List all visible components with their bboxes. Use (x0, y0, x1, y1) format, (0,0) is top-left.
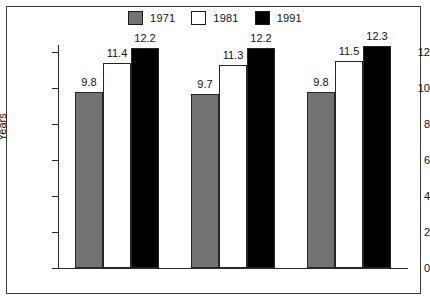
bar-wrap-men-1971: 9.8 (307, 45, 335, 268)
bar-value-men-1981: 11.5 (339, 46, 360, 57)
y-tick-mark-6 (52, 160, 58, 161)
y-tick-mark-2 (52, 232, 58, 233)
bar-wrap-men-1991: 12.3 (363, 45, 391, 268)
legend-label-1991: 1991 (277, 12, 302, 24)
bar-women-1991[interactable] (247, 48, 275, 268)
bar-wrap-total-1971: 9.8 (75, 45, 103, 268)
bar-men-1981[interactable] (335, 61, 363, 268)
legend-item-1991: 1991 (255, 11, 302, 25)
legend-item-1981: 1981 (191, 11, 238, 25)
bar-wrap-total-1981: 11.4 (103, 45, 131, 268)
bar-groups: 9.8 11.4 12.2 Total 9.7 11.3 (59, 45, 407, 268)
legend-label-1981: 1981 (213, 12, 238, 24)
y-axis-title: Years (0, 113, 8, 141)
bar-value-women-1971: 9.7 (197, 79, 212, 90)
bar-value-men-1971: 9.8 (313, 77, 328, 88)
bar-men-1991[interactable] (363, 46, 391, 268)
legend-swatch-1981 (191, 11, 206, 25)
bar-wrap-women-1981: 11.3 (219, 45, 247, 268)
bar-value-women-1981: 11.3 (223, 50, 244, 61)
bar-value-men-1991: 12.3 (366, 31, 387, 42)
x-axis-line (58, 268, 408, 269)
bar-total-1971[interactable] (75, 92, 103, 268)
bar-women-1981[interactable] (219, 65, 247, 268)
bar-value-total-1971: 9.8 (81, 77, 96, 88)
y-tick-mark-8 (52, 124, 58, 125)
bar-total-1991[interactable] (131, 48, 159, 268)
bar-men-1971[interactable] (307, 92, 335, 268)
bar-wrap-women-1991: 12.2 (247, 45, 275, 268)
bar-group-total: 9.8 11.4 12.2 Total (75, 45, 159, 268)
bar-group-men: 9.8 11.5 12.3 Men (307, 45, 391, 268)
bar-value-total-1981: 11.4 (107, 48, 128, 59)
y-tick-mark-10 (52, 88, 58, 89)
chart-legend: 1971 1981 1991 (0, 11, 430, 25)
legend-label-1971: 1971 (150, 12, 175, 24)
bar-wrap-women-1971: 9.7 (191, 45, 219, 268)
y-tick-mark-4 (52, 196, 58, 197)
legend-swatch-1991 (255, 11, 270, 25)
bar-women-1971[interactable] (191, 94, 219, 268)
bar-wrap-total-1991: 12.2 (131, 45, 159, 268)
y-tick-mark-12 (52, 52, 58, 53)
bar-value-women-1991: 12.2 (250, 33, 271, 44)
legend-swatch-1971 (128, 11, 143, 25)
y-tick-mark-0 (52, 268, 58, 269)
legend-item-1971: 1971 (128, 11, 175, 25)
bar-wrap-men-1981: 11.5 (335, 45, 363, 268)
chart-screenshot: 1971 1981 1991 Years 12 10 8 6 4 2 0 9.8 (0, 0, 430, 303)
bar-value-total-1991: 12.2 (134, 33, 155, 44)
bar-group-women: 9.7 11.3 12.2 Women (191, 45, 275, 268)
bar-total-1981[interactable] (103, 63, 131, 268)
